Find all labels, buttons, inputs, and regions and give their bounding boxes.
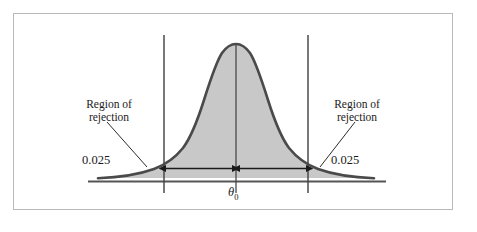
region-of-rejection-label-right: Region of rejection	[318, 98, 396, 124]
statistics-figure: Region of rejection Region of rejection …	[0, 0, 477, 232]
alpha-value-right: 0.025	[331, 153, 359, 167]
leader-line-left	[107, 122, 147, 167]
region-left-line2: rejection	[70, 111, 148, 124]
alpha-value-left: 0.025	[82, 153, 110, 167]
region-right-line1: Region of	[318, 98, 396, 111]
theta-subscript: 0	[234, 192, 238, 202]
region-left-line1: Region of	[70, 98, 148, 111]
center-parameter-label: θ0	[228, 185, 238, 202]
region-of-rejection-label-left: Region of rejection	[70, 98, 148, 124]
region-right-line2: rejection	[318, 111, 396, 124]
